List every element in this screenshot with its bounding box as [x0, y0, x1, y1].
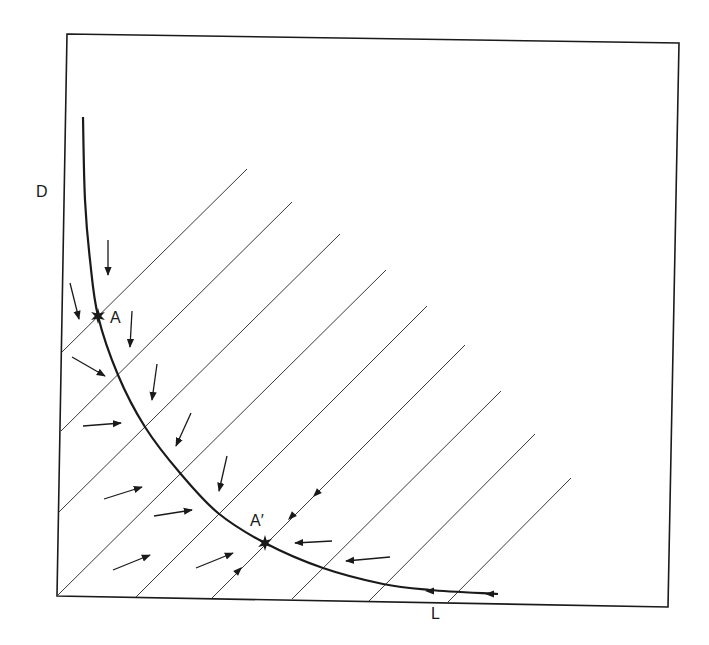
arrow-icon — [72, 357, 105, 376]
arrow-icon — [154, 510, 192, 516]
arrowhead-icon — [288, 511, 297, 520]
direction-arrows — [70, 240, 390, 570]
arrow-icon — [104, 487, 142, 499]
line-arrowheads — [233, 488, 494, 597]
hatch-line — [59, 234, 340, 512]
hatch-line — [369, 434, 535, 601]
y-axis-label: D — [36, 184, 48, 200]
arrow-icon — [113, 555, 150, 570]
point-a-prime-label: A′ — [250, 513, 264, 529]
arrow-icon — [295, 541, 332, 543]
phase-diagram — [0, 0, 709, 645]
x-axis-label: L — [431, 606, 440, 622]
isocline-curve — [83, 117, 498, 594]
hatch-line — [448, 478, 571, 602]
plot-frame — [57, 34, 679, 607]
star-marker-icon — [258, 535, 272, 551]
arrow-icon — [152, 364, 157, 400]
hatch-lines — [57, 169, 571, 602]
arrow-icon — [130, 311, 132, 347]
equilibrium-points — [91, 308, 272, 551]
arrow-icon — [196, 553, 233, 568]
arrow-icon — [176, 413, 191, 446]
arrowhead-icon — [485, 591, 494, 598]
arrow-icon — [346, 557, 390, 561]
hatch-line — [212, 345, 465, 598]
point-a-label: A — [110, 310, 121, 326]
arrowhead-icon — [233, 567, 242, 576]
hatch-line — [136, 306, 427, 597]
arrow-icon — [70, 283, 79, 319]
arrowhead-icon — [425, 588, 434, 595]
hatch-line — [57, 270, 386, 596]
arrow-icon — [219, 456, 227, 491]
arrow-icon — [83, 423, 121, 426]
